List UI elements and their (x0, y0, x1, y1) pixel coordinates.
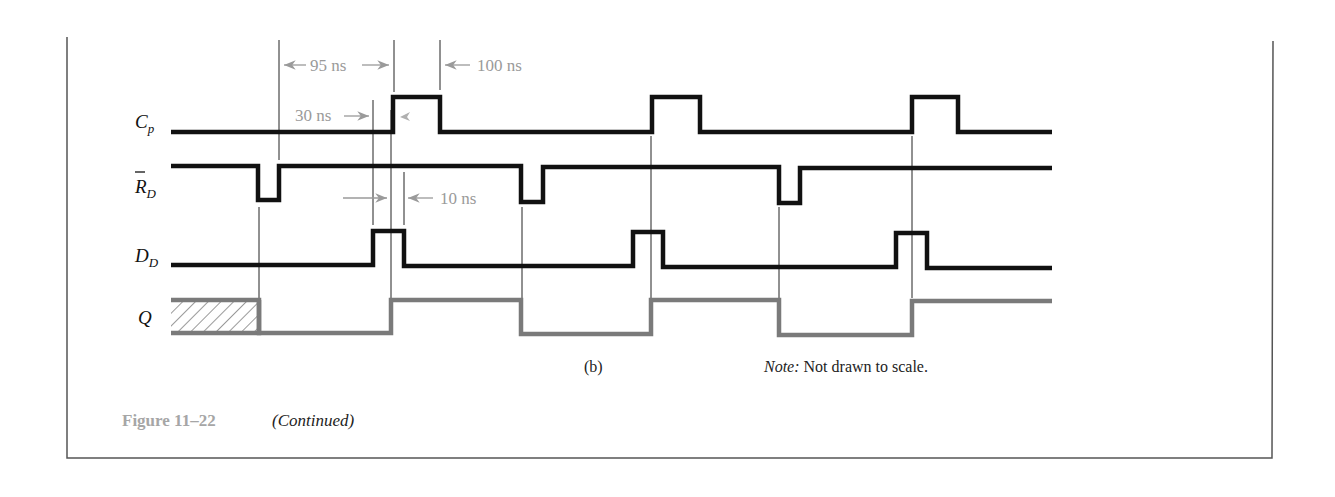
signal-label-cp: Cp (135, 111, 155, 136)
signal-dd-waveform (171, 231, 1052, 268)
timing-diagram: Cp RD DD Q 95 ns 100 ns 30 ns 10 ns (b) … (0, 0, 1335, 497)
part-label: (b) (584, 358, 603, 376)
signal-label-dd: DD (134, 245, 159, 270)
svg-text:Q: Q (138, 307, 152, 328)
annotation-100ns: 100 ns (445, 56, 522, 75)
svg-text:95 ns: 95 ns (310, 56, 346, 75)
signal-q-waveform-main (259, 300, 1052, 335)
svg-text:10 ns: 10 ns (440, 189, 476, 208)
signal-q-undefined-region (171, 300, 259, 333)
svg-text:30 ns: 30 ns (295, 106, 331, 125)
figure-caption-text: (Continued) (272, 411, 354, 430)
figure-frame (67, 37, 1273, 458)
annotation-95ns: 95 ns (284, 56, 389, 75)
annotation-10ns: 10 ns (343, 189, 476, 208)
signal-label-rd: RD (134, 172, 157, 201)
figure-caption-number: Figure 11–22 (122, 411, 216, 430)
svg-text:Cp: Cp (135, 111, 155, 136)
scale-note: Note: Not drawn to scale. (763, 358, 928, 375)
signal-label-q: Q (138, 307, 152, 328)
svg-text:100 ns: 100 ns (477, 56, 522, 75)
svg-text:DD: DD (134, 245, 159, 270)
signal-rd-waveform (171, 166, 1052, 203)
svg-text:RD: RD (134, 176, 157, 201)
